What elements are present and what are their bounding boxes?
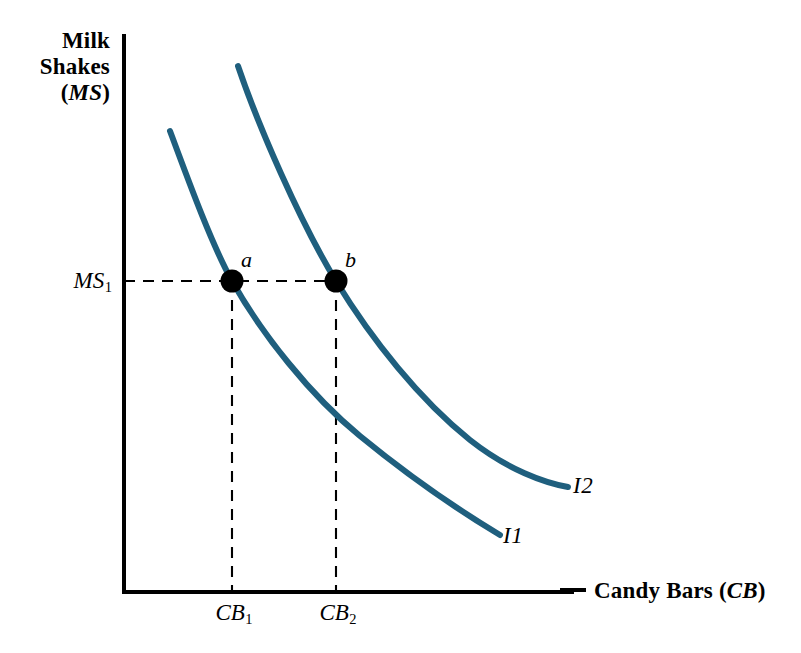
curve-label-i2: I2 — [573, 473, 593, 499]
y-tick-label-ms1: MS1 — [36, 268, 112, 295]
y-axis-title-symbol: MS — [68, 80, 102, 105]
point-label-b: b — [345, 248, 356, 273]
x-tick-label-cb2-subscript: 2 — [349, 611, 356, 627]
indifference-curve-figure: Milk Shakes (MS) Candy Bars (CB) MS1 CB1… — [0, 0, 801, 653]
curve-label-i1: I1 — [503, 523, 523, 549]
x-axis-title: Candy Bars (CB) — [594, 578, 766, 604]
curve-i2 — [238, 66, 568, 487]
x-axis-title-text: Candy Bars ( — [594, 578, 727, 603]
x-axis-title-paren-close: ) — [758, 578, 766, 603]
x-tick-label-cb1-subscript: 1 — [245, 611, 252, 627]
x-tick-label-cb2-base: CB — [319, 600, 348, 625]
x-tick-label-cb2: CB2 — [310, 600, 366, 627]
y-tick-label-ms1-base: MS — [74, 268, 105, 293]
y-axis-title-line-3: (MS) — [26, 80, 110, 106]
y-axis-title-line-2: Shakes — [26, 54, 110, 80]
point-marker-b — [325, 270, 348, 293]
y-axis-title: Milk Shakes (MS) — [26, 28, 110, 105]
x-tick-label-cb1-base: CB — [215, 600, 244, 625]
point-marker-a — [221, 270, 244, 293]
y-tick-label-ms1-subscript: 1 — [105, 279, 112, 295]
y-axis-title-line-1: Milk — [26, 28, 110, 54]
y-axis-title-paren-close: ) — [102, 80, 110, 105]
point-label-a: a — [241, 248, 252, 273]
chart-canvas — [0, 0, 801, 653]
x-axis-title-symbol: CB — [727, 578, 758, 603]
x-tick-label-cb1: CB1 — [206, 600, 262, 627]
